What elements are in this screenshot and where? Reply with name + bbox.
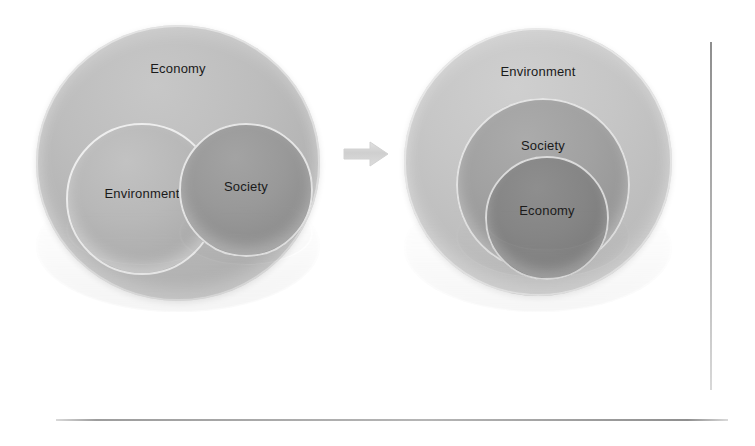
vertical-divider-line — [710, 42, 712, 390]
left-circle-society[interactable]: Society — [179, 123, 313, 257]
right-circle-economy[interactable]: Economy — [485, 156, 609, 280]
left-model-overlapping-circles: Economy Environment Society — [36, 25, 324, 305]
sphere-gloss-highlight — [485, 156, 609, 280]
diagram-canvas: Economy Environment Society — [0, 0, 755, 446]
right-circle-environment-label: Environment — [404, 64, 672, 79]
left-circle-society-label: Society — [179, 179, 313, 194]
right-arrow-icon — [343, 140, 389, 168]
left-circle-economy-label: Economy — [36, 61, 320, 76]
right-circle-economy-label: Economy — [485, 203, 609, 218]
right-model-nested-circles: Environment Society Economy — [404, 28, 676, 304]
right-circle-society-label: Society — [456, 138, 630, 153]
horizontal-baseline — [56, 419, 728, 421]
right-arrow-glyph — [343, 140, 389, 168]
